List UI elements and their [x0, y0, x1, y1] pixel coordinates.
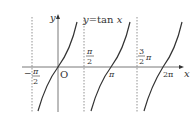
tan-branch-2 [91, 22, 130, 111]
y-axis-arrow [56, 14, 60, 19]
function-label: y=tan x [82, 14, 123, 25]
origin-label: O [60, 69, 68, 80]
pi-half-den: 2 [87, 57, 92, 66]
neg-sign: − [24, 68, 32, 78]
pi-half-num: π [86, 47, 93, 56]
three-half-pi: π [145, 53, 152, 62]
two-pi-label: 2π [163, 70, 173, 79]
three-half-den: 2 [139, 57, 144, 66]
three-half-num: 3 [139, 47, 144, 56]
neg-pi-half-den: 2 [33, 77, 38, 86]
x-axis-label: x [184, 68, 190, 79]
y-axis-label: y [49, 12, 56, 23]
pi-label: π [108, 70, 115, 79]
neg-pi-half-num: π [32, 67, 39, 76]
tan-graph: y y=tan x x O − π 2 π 2 π 3 2 π 2π [0, 0, 194, 124]
tan-branch-1 [38, 22, 77, 111]
tan-branch-3 [144, 22, 182, 111]
